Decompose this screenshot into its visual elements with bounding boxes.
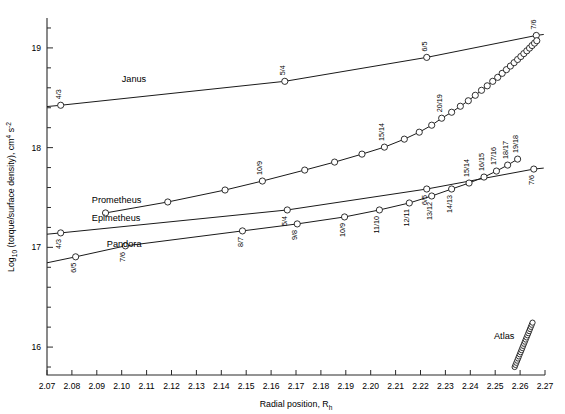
data-point-marker [239,228,245,234]
resonance-ratio-label: 10/9 [255,161,264,175]
data-point-marker [530,320,535,325]
data-point-marker [466,180,472,186]
data-point-marker [406,200,412,206]
series-name-label-atlas: Atlas [494,331,515,341]
resonance-ratio-label: 18/17 [501,141,510,159]
resonance-ratio-label: 5/4 [278,65,287,75]
data-point-marker [359,151,365,157]
data-point-marker [416,129,422,135]
resonance-ratio-label: 15/14 [377,123,386,141]
x-tick-label: 2.19 [337,381,354,391]
data-point-marker [401,136,407,142]
resonance-ratio-label: 7/6 [527,175,536,185]
resonance-ratio-label: 11/10 [372,216,381,233]
x-tick-label: 2.26 [512,381,529,391]
x-tick-label: 2.09 [88,381,105,391]
data-point-marker [294,221,300,227]
data-point-marker [58,102,64,108]
resonance-ratio-label: 20/19 [435,94,444,112]
y-tick-label: 19 [31,43,41,53]
data-point-marker [534,38,540,44]
resonance-ratio-label: 9/8 [290,230,299,240]
resonance-ratio-label: 5/4 [280,216,289,226]
data-point-marker [449,109,455,115]
x-tick-label: 2.13 [188,381,205,391]
data-point-marker [484,83,490,89]
resonance-ratio-label: 13/12 [425,202,434,220]
data-point-marker [341,214,347,220]
figure-root: 2.072.082.092.102.112.122.132.142.152.16… [0,0,565,414]
x-tick-label: 2.27 [537,381,554,391]
x-tick-label: 2.16 [263,381,280,391]
series-name-label-prometheus: Prometheus [92,195,142,205]
data-point-marker [73,254,79,260]
x-tick-label: 2.24 [462,381,479,391]
data-point-marker [429,122,435,128]
resonance-ratio-label: 10/9 [338,223,347,237]
data-point-marker [531,166,537,172]
x-tick-label: 2.21 [387,381,404,391]
data-point-marker [58,230,64,236]
resonance-ratio-label: 8/7 [236,237,245,247]
series-name-label-epimetheus: Epimetheus [92,213,141,223]
series-name-label-pandora: Pandora [107,239,143,249]
data-point-marker [165,199,171,205]
data-point-marker [493,168,499,174]
data-point-marker [472,92,478,98]
y-axis-title: Log10 (torque/surface density), cm4 s-2 [5,122,19,272]
data-point-marker [478,87,484,93]
data-point-marker [222,187,228,193]
x-tick-label: 2.11 [139,381,155,391]
data-point-marker [284,207,290,213]
resonance-ratio-label: 12/11 [402,209,411,226]
y-tick-label: 18 [31,143,41,153]
y-tick-label: 17 [31,242,41,252]
x-tick-label: 2.10 [113,381,130,391]
data-point-marker [515,156,521,162]
data-point-marker [381,144,387,150]
x-tick-label: 2.22 [412,381,429,391]
x-tick-label: 2.14 [213,381,230,391]
resonance-ratio-label: 14/13 [445,195,454,213]
resonance-ratio-label: 7/6 [529,20,538,30]
data-point-marker [481,174,487,180]
resonance-ratio-label: 4/3 [54,239,63,249]
x-tick-label: 2.15 [238,381,255,391]
data-point-marker [282,78,288,84]
resonance-ratio-label: 4/3 [54,89,63,99]
data-point-marker [465,98,471,104]
data-point-marker [331,159,337,165]
x-tick-label: 2.25 [487,381,504,391]
data-point-marker [424,186,430,192]
x-tick-label: 2.08 [64,381,81,391]
data-point-marker [302,167,308,173]
x-tick-label: 2.12 [163,381,180,391]
data-point-marker [457,103,463,109]
data-point-marker [424,54,430,60]
x-tick-label: 2.07 [39,381,56,391]
data-point-marker [439,115,445,121]
x-tick-label: 2.20 [362,381,379,391]
resonance-ratio-label: 16/15 [477,153,486,171]
x-tick-label: 2.17 [288,381,305,391]
resonance-ratio-label: 6/5 [69,263,78,273]
series-name-label-janus: Janus [122,74,147,84]
resonance-ratio-label: 19/18 [511,135,520,153]
data-point-marker [376,207,382,213]
resonance-torque-chart: 2.072.082.092.102.112.122.132.142.152.16… [0,0,565,414]
data-point-marker [449,186,455,192]
data-point-marker [429,193,435,199]
chart-background [0,0,565,414]
resonance-ratio-label: 7/6 [118,252,127,262]
resonance-ratio-label: 17/16 [489,147,498,165]
x-tick-label: 2.23 [437,381,454,391]
y-tick-label: 16 [31,342,41,352]
data-point-marker [505,162,511,168]
resonance-ratio-label: 15/14 [462,159,471,177]
data-point-marker [259,178,265,184]
x-tick-label: 2.18 [313,381,330,391]
resonance-ratio-label: 6/5 [420,41,429,51]
